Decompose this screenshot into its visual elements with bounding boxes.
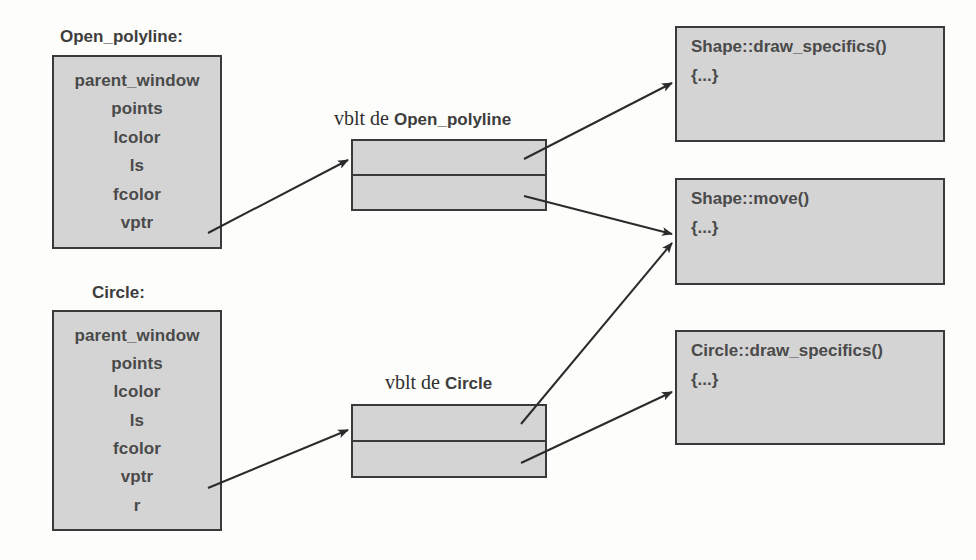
field-ls: ls	[130, 157, 144, 175]
function-signature: Circle::draw_specifics()	[691, 341, 929, 361]
diagram-canvas: Open_polyline: parent_window points lcol…	[0, 0, 976, 560]
vtable-box-circle	[351, 404, 547, 478]
field-points: points	[111, 355, 163, 373]
object-box-circle: parent_window points lcolor ls fcolor vp…	[52, 310, 222, 531]
field-fcolor: fcolor	[113, 440, 161, 458]
field-vptr: vptr	[121, 214, 154, 232]
vtable-open-polyline-label-name: Open_polyline	[394, 110, 511, 129]
vtable-open-polyline-label-prefix: vblt de	[334, 107, 394, 129]
field-parent-window: parent_window	[74, 327, 199, 345]
function-signature: Shape::draw_specifics()	[691, 37, 929, 57]
arrow-circle-vptr-to-vtable	[208, 430, 348, 488]
field-lcolor: lcolor	[114, 129, 161, 147]
function-body: {...}	[691, 370, 929, 390]
function-body: {...}	[691, 66, 929, 86]
circle-title: Circle:	[92, 283, 145, 303]
function-box-shape-draw-specifics: Shape::draw_specifics() {...}	[675, 26, 945, 142]
vtable-open-polyline-slot-1	[353, 176, 545, 209]
field-ls: ls	[130, 412, 144, 430]
function-box-shape-move: Shape::move() {...}	[675, 178, 945, 285]
arrow-vtable-circle-slot0-to-shape-move	[521, 243, 672, 424]
function-signature: Shape::move()	[691, 189, 929, 209]
arrow-open-polyline-vptr-to-vtable	[208, 160, 348, 233]
function-box-circle-draw-specifics: Circle::draw_specifics() {...}	[675, 330, 945, 445]
vtable-open-polyline-slot-0	[353, 141, 545, 176]
vtable-open-polyline-label: vblt de Open_polyline	[334, 107, 511, 130]
vtable-circle-slot-1	[353, 442, 545, 476]
field-parent-window: parent_window	[74, 72, 199, 90]
field-r: r	[134, 497, 141, 515]
field-vptr: vptr	[121, 468, 154, 486]
field-fcolor: fcolor	[113, 186, 161, 204]
vtable-circle-label: vblt de Circle	[385, 371, 492, 394]
vtable-box-open-polyline	[351, 139, 547, 211]
object-box-open-polyline: parent_window points lcolor ls fcolor vp…	[52, 55, 222, 249]
open-polyline-title: Open_polyline:	[60, 27, 183, 47]
function-body: {...}	[691, 218, 929, 238]
vtable-circle-label-prefix: vblt de	[385, 371, 445, 393]
vtable-circle-label-name: Circle	[445, 374, 492, 393]
vtable-circle-slot-0	[353, 406, 545, 442]
field-lcolor: lcolor	[114, 383, 161, 401]
field-points: points	[111, 100, 163, 118]
